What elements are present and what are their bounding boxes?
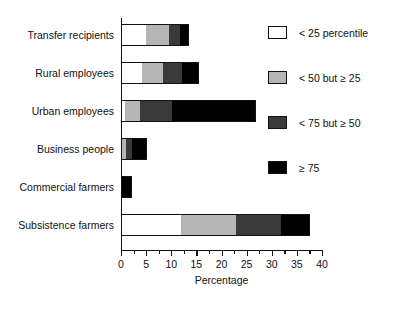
legend-swatch-icon <box>268 26 287 39</box>
bar-segment <box>140 100 172 122</box>
legend-swatch-icon <box>268 71 287 84</box>
legend-item[interactable]: < 50 but ≥ 25 <box>268 71 361 84</box>
x-tick-label: 0 <box>108 258 134 270</box>
x-tick-label: 30 <box>259 258 285 270</box>
legend-swatch-icon <box>268 161 287 174</box>
bar-row <box>121 62 199 84</box>
bar-row <box>121 214 310 236</box>
bar-segment <box>121 214 181 236</box>
category-label: Transfer recipients <box>27 29 114 41</box>
x-tick-minor <box>259 250 260 254</box>
x-tick-minor <box>234 250 235 254</box>
legend-label: ≥ 75 <box>299 162 319 174</box>
bar-segment <box>182 62 200 84</box>
x-tick-major <box>322 250 323 256</box>
x-tick-minor <box>284 250 285 254</box>
x-tick-major <box>196 250 197 256</box>
bar-segment <box>121 62 142 84</box>
category-label: Rural employees <box>35 67 114 79</box>
bar-row <box>121 24 189 46</box>
bar-segment <box>142 62 163 84</box>
category-label: Urban employees <box>32 105 114 117</box>
x-tick-major <box>297 250 298 256</box>
plot-area <box>121 18 322 250</box>
x-tick-major <box>171 250 172 256</box>
x-tick-major <box>247 250 248 256</box>
x-tick-minor <box>184 250 185 254</box>
legend-label: < 25 percentile <box>299 27 368 39</box>
bar-segment <box>181 214 236 236</box>
x-tick-label: 40 <box>309 258 335 270</box>
category-label: Business people <box>37 143 114 155</box>
x-tick-label: 25 <box>234 258 260 270</box>
legend-label: < 50 but ≥ 25 <box>299 72 361 84</box>
bar-segment <box>121 24 146 46</box>
x-axis-title: Percentage <box>121 274 322 286</box>
x-tick-minor <box>309 250 310 254</box>
bar-segment <box>180 24 190 46</box>
bar-segment <box>281 214 310 236</box>
x-tick-label: 10 <box>158 258 184 270</box>
x-tick-major <box>222 250 223 256</box>
bar-row <box>121 100 256 122</box>
x-tick-label: 5 <box>133 258 159 270</box>
legend-item[interactable]: < 75 but ≥ 50 <box>268 116 361 129</box>
bar-segment <box>146 24 169 46</box>
x-tick-label: 15 <box>183 258 209 270</box>
x-tick-major <box>272 250 273 256</box>
x-tick-minor <box>159 250 160 254</box>
legend-item[interactable]: ≥ 75 <box>268 161 319 174</box>
bar-segment <box>172 100 256 122</box>
category-label: Subsistence farmers <box>18 219 114 231</box>
bar-segment <box>169 24 180 46</box>
bar-segment <box>125 100 140 122</box>
x-tick-label: 35 <box>284 258 310 270</box>
bar-segment <box>132 138 147 160</box>
bar-row <box>121 176 132 198</box>
bar-segment <box>236 214 281 236</box>
bar-segment <box>121 176 132 198</box>
x-tick-minor <box>134 250 135 254</box>
bar-row <box>121 138 147 160</box>
x-tick-major <box>146 250 147 256</box>
legend-item[interactable]: < 25 percentile <box>268 26 368 39</box>
category-label: Commercial farmers <box>19 181 114 193</box>
x-tick-label: 20 <box>209 258 235 270</box>
x-axis: Percentage 0510152025303540 <box>121 250 322 310</box>
x-tick-major <box>121 250 122 256</box>
stacked-bar-chart: Transfer recipientsRural employeesUrban … <box>0 0 406 310</box>
legend-swatch-icon <box>268 116 287 129</box>
bar-segment <box>163 62 182 84</box>
x-tick-minor <box>209 250 210 254</box>
category-label-column: Transfer recipientsRural employeesUrban … <box>0 0 114 310</box>
legend-label: < 75 but ≥ 50 <box>299 117 361 129</box>
